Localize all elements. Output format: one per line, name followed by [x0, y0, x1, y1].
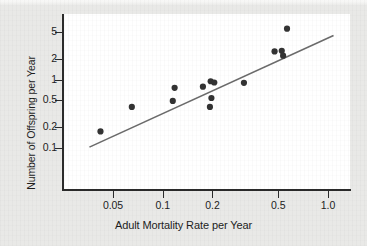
- trend-line: [89, 35, 333, 147]
- data-point: [211, 79, 217, 85]
- x-tick: [212, 191, 213, 198]
- x-tick-label: 0.05: [103, 199, 123, 211]
- y-axis-line: [62, 14, 64, 191]
- data-point: [208, 95, 214, 101]
- y-tick-label: 1: [51, 73, 57, 85]
- y-tick-label: 0.1: [43, 141, 57, 153]
- x-tick: [163, 191, 164, 198]
- y-axis-title: Number of Offspring per Year: [22, 0, 40, 246]
- scatter-plot-svg: [63, 14, 350, 190]
- figure-container: 0.10.20.5125 0.050.10.20.51.0 Number of …: [0, 0, 367, 246]
- x-tick-label: 0.2: [205, 199, 219, 211]
- x-axis-title-label: Adult Mortality Rate per Year: [0, 219, 367, 231]
- data-point: [170, 98, 176, 104]
- data-point: [271, 48, 277, 54]
- y-axis-title-label: Number of Offspring per Year: [25, 56, 37, 190]
- data-point: [200, 84, 206, 90]
- data-point: [129, 104, 135, 110]
- x-axis-line: [62, 189, 351, 191]
- x-tick: [278, 191, 279, 198]
- regression-line: [89, 35, 333, 147]
- data-point: [280, 53, 286, 59]
- y-tick-label: 5: [51, 25, 57, 37]
- data-point: [284, 26, 290, 32]
- x-tick: [328, 191, 329, 198]
- data-point: [207, 104, 213, 110]
- x-tick-label: 0.5: [271, 199, 285, 211]
- x-tick-label: 1.0: [321, 199, 335, 211]
- y-tick-label: 0.5: [43, 93, 57, 105]
- data-points: [97, 26, 290, 135]
- data-point: [172, 85, 178, 91]
- y-tick-label: 0.2: [43, 120, 57, 132]
- plot-panel: [63, 14, 350, 190]
- data-point: [97, 128, 103, 134]
- y-tick-label: 2: [51, 52, 57, 64]
- x-tick: [113, 191, 114, 198]
- x-tick-label: 0.1: [156, 199, 170, 211]
- data-point: [241, 80, 247, 86]
